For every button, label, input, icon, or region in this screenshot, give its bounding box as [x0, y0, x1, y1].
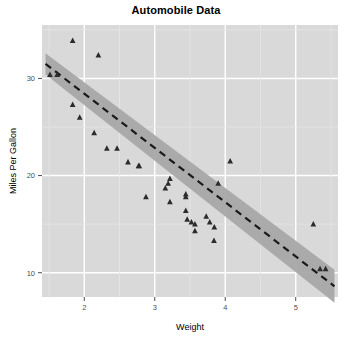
x-tick-label: 3 [153, 303, 157, 312]
y-tick-label: 20 [27, 171, 35, 180]
x-axis-ticks: 2345 [82, 297, 298, 312]
scatter-plot: 2345 102030 Weight Miles Per Gallon [0, 0, 352, 347]
x-axis-title: Weight [176, 322, 204, 332]
y-axis-title: Miles Per Gallon [8, 128, 18, 194]
y-axis-ticks: 102030 [27, 74, 42, 277]
y-tick-label: 30 [27, 74, 35, 83]
chart-figure: Automobile Data 2345 102030 Weight Miles… [0, 0, 352, 347]
y-tick-label: 10 [27, 269, 35, 278]
x-tick-label: 5 [294, 303, 298, 312]
x-tick-label: 2 [82, 303, 86, 312]
x-tick-label: 4 [223, 303, 227, 312]
